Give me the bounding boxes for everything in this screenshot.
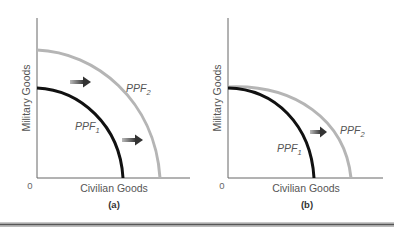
panel-label-b: (b) — [301, 199, 313, 210]
panel-a: PPF2 PPF1 Military Goods Civilian Goods … — [20, 18, 190, 210]
ppf1-label: PPF1 — [277, 142, 302, 157]
panel-label-a: (a) — [108, 199, 120, 210]
origin-label: 0 — [27, 180, 32, 191]
ppf2-label: PPF2 — [126, 82, 151, 97]
y-axis-title: Military Goods — [20, 64, 32, 131]
ppf2-curve — [37, 50, 160, 178]
ppf1-label: PPF1 — [75, 120, 100, 135]
ppf2-label: PPF2 — [340, 124, 365, 139]
x-axis-title: Civilian Goods — [272, 182, 340, 194]
ppf-figure: PPF2 PPF1 Military Goods Civilian Goods … — [0, 0, 394, 231]
shift-arrow-icon — [122, 135, 143, 146]
shift-arrow-icon — [310, 127, 327, 138]
panel-b: PPF2 PPF1 Military Goods Civilian Goods … — [211, 18, 383, 210]
y-axis-title: Military Goods — [211, 64, 223, 131]
shift-arrow-icon — [70, 77, 91, 88]
x-axis-title: Civilian Goods — [80, 182, 148, 194]
bottom-divider — [0, 223, 394, 227]
origin-label: 0 — [219, 180, 224, 191]
ppf2-curve — [228, 87, 351, 178]
ppf1-curve — [37, 88, 123, 178]
